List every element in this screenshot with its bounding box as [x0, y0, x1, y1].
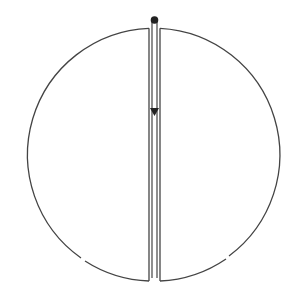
split-circle-diagram — [0, 0, 298, 298]
diagram-canvas — [0, 0, 298, 298]
right-half-arc-lower — [160, 259, 226, 281]
arrow-down-icon — [150, 108, 159, 116]
start-dot-icon — [151, 16, 159, 24]
left-half-arc-lower — [85, 261, 149, 281]
left-half-arc-upper — [28, 28, 149, 258]
right-half-arc-upper — [160, 28, 280, 256]
